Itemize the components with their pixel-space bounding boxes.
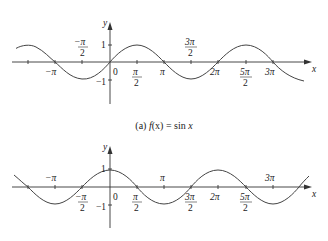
svg-text:3π: 3π xyxy=(184,37,195,47)
cos-graph: y x 1 −1 0 −π −π 2 π 2 π 3π 2 2π 5π 2 3π xyxy=(12,142,317,228)
svg-text:2: 2 xyxy=(243,203,248,213)
y-tick-neg-1: −1 xyxy=(96,77,106,87)
x-tick-two-pi: 2π xyxy=(210,67,220,77)
x-tick-three-pi: 3π xyxy=(264,173,275,183)
y-axis-label: y xyxy=(102,142,108,152)
x-tick-pi: π xyxy=(160,67,165,77)
caption-arg: (x) xyxy=(152,120,164,131)
x-axis-arrow-icon xyxy=(304,185,312,190)
x-tick-neg-half-pi: −π 2 xyxy=(74,37,88,58)
caption-sin: (a) f(x) = sin x xyxy=(0,120,328,131)
x-tick-neg-half-pi: −π 2 xyxy=(75,192,88,213)
svg-text:−π: −π xyxy=(75,192,86,202)
svg-text:2: 2 xyxy=(134,78,139,88)
caption-var: x xyxy=(188,120,192,131)
svg-text:2: 2 xyxy=(80,48,85,58)
x-tick-three-half-pi: 3π 2 xyxy=(184,192,197,213)
x-tick-two-pi: 2π xyxy=(210,192,220,202)
x-tick-neg-pi: −π xyxy=(45,173,56,183)
x-tick-three-pi: 3π xyxy=(264,67,275,77)
svg-text:2: 2 xyxy=(80,203,85,213)
svg-text:2: 2 xyxy=(188,48,193,58)
svg-text:2: 2 xyxy=(188,203,193,213)
y-tick-neg-1: −1 xyxy=(96,202,106,212)
caption-eq: = sin xyxy=(163,120,188,131)
y-axis-label: y xyxy=(102,18,108,28)
svg-text:3π: 3π xyxy=(184,192,195,202)
svg-text:2: 2 xyxy=(243,78,248,88)
y-tick-1: 1 xyxy=(101,164,106,174)
svg-text:−π: −π xyxy=(74,37,85,47)
origin-label: 0 xyxy=(113,67,118,77)
svg-text:π: π xyxy=(133,67,138,77)
x-tick-three-half-pi: 3π 2 xyxy=(184,37,197,58)
caption-prefix: (a) xyxy=(135,120,149,131)
x-axis-label: x xyxy=(311,189,317,199)
x-axis-label: x xyxy=(311,64,317,74)
svg-text:5π: 5π xyxy=(240,67,250,77)
y-axis-arrow-icon xyxy=(108,146,113,154)
svg-text:5π: 5π xyxy=(240,192,250,202)
svg-text:π: π xyxy=(133,192,138,202)
x-tick-pi: π xyxy=(160,173,165,183)
y-tick-1: 1 xyxy=(101,40,106,50)
svg-text:2: 2 xyxy=(134,203,139,213)
origin-label: 0 xyxy=(113,192,118,202)
x-tick-five-half-pi: 5π 2 xyxy=(240,192,252,213)
x-axis-arrow-icon xyxy=(304,60,312,65)
x-tick-neg-pi: −π xyxy=(45,67,56,77)
x-tick-half-pi: π 2 xyxy=(132,67,142,88)
x-tick-half-pi: π 2 xyxy=(132,192,142,213)
x-tick-five-half-pi: 5π 2 xyxy=(240,67,252,88)
y-axis-arrow-icon xyxy=(108,22,113,30)
sin-graph: y x 1 −1 0 −π −π 2 π 2 π 3π 2 2π 5π 2 xyxy=(12,18,317,104)
